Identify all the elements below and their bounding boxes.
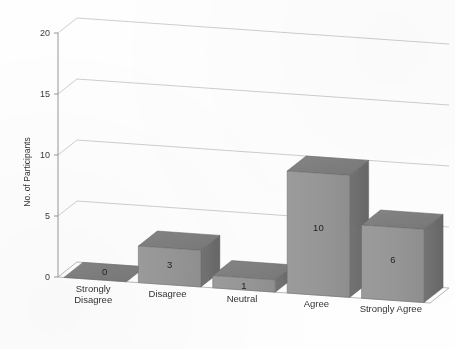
category-label-disagree: Disagree xyxy=(149,288,187,299)
bar-chart-3d: 05101520 StronglyDisagreeDisagreeNeutral… xyxy=(0,0,455,349)
category-label-line: Neutral xyxy=(227,293,258,304)
bar-agree[interactable] xyxy=(287,156,369,297)
category-label-strongly-disagree: StronglyDisagree xyxy=(74,283,112,305)
category-label-neutral: Neutral xyxy=(227,293,258,304)
y-tick-label-10: 10 xyxy=(40,150,50,160)
bar-disagree[interactable] xyxy=(138,231,220,287)
y-tick-label-20: 20 xyxy=(40,28,50,38)
bar-value-label: 10 xyxy=(313,222,324,233)
category-label-strongly-agree: Strongly Agree xyxy=(360,303,422,314)
chart-container: 05101520 StronglyDisagreeDisagreeNeutral… xyxy=(0,0,455,349)
y-tick-label-0: 0 xyxy=(45,272,50,282)
bar-strongly-agree[interactable] xyxy=(362,210,444,303)
bar-value-label: 3 xyxy=(167,259,172,270)
category-label-line: Strongly Agree xyxy=(360,303,422,314)
category-label-line: Disagree xyxy=(149,288,187,299)
bar-value-label: 6 xyxy=(390,254,395,265)
bar-value-label: 1 xyxy=(241,280,246,291)
category-label-line: Disagree xyxy=(74,294,112,305)
bar-front-face xyxy=(287,171,350,297)
category-label-agree: Agree xyxy=(304,298,329,309)
y-axis-title: No. of Participants xyxy=(22,137,32,206)
y-tick-label-15: 15 xyxy=(40,89,50,99)
category-label-line: Strongly xyxy=(76,283,111,294)
bar-side-face xyxy=(424,214,443,302)
category-label-line: Agree xyxy=(304,298,329,309)
y-tick-label-5: 5 xyxy=(45,211,50,221)
bar-value-label: 0 xyxy=(102,266,107,277)
